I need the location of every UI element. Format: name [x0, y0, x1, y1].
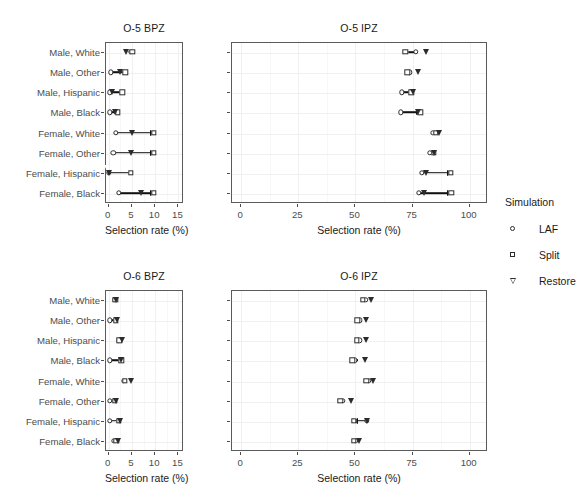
gridline-vertical-minor — [384, 291, 385, 450]
gridline-vertical — [241, 291, 242, 450]
x-axis-tick-label: 100 — [461, 457, 477, 468]
data-point-restore — [363, 317, 369, 323]
legend-label: LAF — [539, 223, 558, 235]
gridline-horizontal — [232, 402, 486, 403]
y-axis-tick — [227, 441, 230, 442]
data-point-split — [364, 378, 369, 383]
panel-bottom-right: O-6 IPZ0255075100Selection rate (%) — [0, 0, 585, 496]
legend-item[interactable]: LAF — [513, 218, 585, 240]
legend: SimulationLAFSplitRestore — [505, 196, 585, 306]
gridline-horizontal — [232, 422, 486, 423]
gridline-vertical-minor — [441, 291, 442, 450]
legend-item[interactable]: Restore — [513, 270, 585, 292]
y-axis-tick — [227, 401, 230, 402]
data-point-restore — [363, 337, 369, 343]
gridline-horizontal — [232, 361, 486, 362]
data-point-split — [355, 317, 360, 322]
data-point-split — [351, 418, 356, 423]
x-axis-tick-label: 75 — [406, 457, 417, 468]
x-axis-title: Selection rate (%) — [231, 472, 487, 484]
data-point-restore — [364, 418, 370, 424]
gridline-vertical — [298, 291, 299, 450]
data-point-split — [354, 338, 359, 343]
x-axis-tick — [354, 452, 355, 455]
legend-label: Restore — [539, 275, 576, 287]
data-point-restore — [348, 398, 354, 404]
gridline-vertical — [413, 291, 414, 450]
data-point-restore — [356, 438, 362, 444]
gridline-vertical — [470, 291, 471, 450]
legend-item[interactable]: Split — [513, 244, 585, 266]
data-point-restore — [362, 357, 368, 363]
x-axis-tick-label: 25 — [292, 457, 303, 468]
gridline-horizontal — [232, 382, 486, 383]
panel-title: O-6 IPZ — [231, 270, 487, 282]
x-axis-tick-label: 50 — [349, 457, 360, 468]
data-point-restore — [370, 378, 376, 384]
gridline-vertical — [355, 291, 356, 450]
y-axis-tick — [227, 340, 230, 341]
y-axis-tick — [227, 360, 230, 361]
figure-canvas: O-5 BPZMale, WhiteMale, OtherMale, Hispa… — [0, 0, 585, 496]
gridline-vertical-minor — [327, 291, 328, 450]
x-axis-tick — [240, 452, 241, 455]
plot-area — [231, 290, 487, 451]
x-axis-tick — [469, 452, 470, 455]
data-point-split — [338, 398, 343, 403]
y-axis-tick — [227, 381, 230, 382]
data-point-restore — [368, 297, 374, 303]
data-point-split — [360, 297, 365, 302]
legend-label: Split — [539, 249, 559, 261]
x-axis-tick — [412, 452, 413, 455]
y-axis-tick — [227, 320, 230, 321]
y-axis-tick — [227, 421, 230, 422]
data-point-split — [349, 358, 354, 363]
y-axis-tick — [227, 300, 230, 301]
gridline-vertical-minor — [270, 291, 271, 450]
x-axis-tick — [297, 452, 298, 455]
legend-title: Simulation — [505, 196, 554, 208]
x-axis-tick-label: 0 — [237, 457, 242, 468]
